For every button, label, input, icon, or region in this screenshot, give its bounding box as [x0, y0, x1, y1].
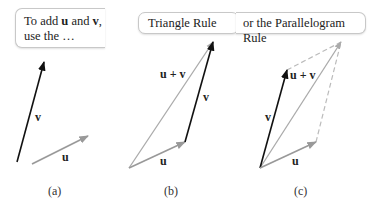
label-sum: u + v [290, 68, 316, 82]
label-v: v [35, 110, 41, 124]
label-v: v [203, 90, 209, 104]
caption-c: (c) [294, 184, 307, 198]
label-u: u [160, 154, 167, 168]
label-sum: u + v [160, 67, 186, 81]
dashed-edge-right [316, 42, 341, 142]
label-u: u [292, 154, 299, 168]
vector-u-arrow [32, 136, 88, 164]
caption-a: (a) [48, 184, 61, 198]
label-v: v [265, 110, 271, 124]
panel-a: v u (a) [17, 62, 88, 198]
dashed-edge-top [287, 42, 341, 70]
panel-c: u + v v u (c) [260, 42, 341, 198]
label-u: u [62, 150, 69, 164]
vector-diagram: v u (a) u + v v u (b) u + v v u (c) [0, 0, 374, 215]
panel-b: u + v v u (b) [129, 42, 213, 198]
caption-b: (b) [164, 184, 178, 198]
